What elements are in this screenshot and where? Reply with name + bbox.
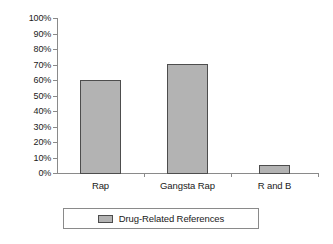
chart-legend: Drug-Related References bbox=[63, 208, 259, 229]
y-axis-tick bbox=[53, 127, 57, 128]
bar bbox=[167, 64, 208, 174]
legend-label: Drug-Related References bbox=[119, 213, 224, 224]
bar bbox=[80, 80, 121, 174]
y-axis-tick bbox=[53, 65, 57, 66]
y-axis-tick-label: 90% bbox=[34, 29, 51, 38]
y-axis-tick bbox=[53, 34, 57, 35]
y-axis-tick-label: 0% bbox=[38, 169, 51, 178]
y-axis-tick bbox=[53, 49, 57, 50]
y-axis-tick bbox=[53, 142, 57, 143]
x-axis-tick bbox=[231, 173, 232, 177]
y-axis-tick-label: 100% bbox=[29, 14, 51, 23]
bar bbox=[259, 165, 290, 174]
y-axis-line bbox=[57, 18, 58, 174]
legend-swatch bbox=[98, 215, 113, 223]
y-axis-tick bbox=[53, 96, 57, 97]
y-axis-tick-label: 30% bbox=[34, 122, 51, 131]
y-axis-tick-label: 80% bbox=[34, 45, 51, 54]
y-axis-tick-label: 10% bbox=[34, 153, 51, 162]
y-axis-tick-label: 20% bbox=[34, 138, 51, 147]
y-axis-tick bbox=[53, 173, 57, 174]
y-axis-tick bbox=[53, 18, 57, 19]
x-axis-category-label: Rap bbox=[92, 180, 109, 191]
bar-chart: 0%10%20%30%40%50%60%70%80%90%100% RapGan… bbox=[0, 0, 333, 244]
y-axis-tick bbox=[53, 158, 57, 159]
x-axis-tick bbox=[144, 173, 145, 177]
x-axis-category-label: Gangsta Rap bbox=[160, 180, 215, 191]
y-axis-tick-label: 50% bbox=[34, 91, 51, 100]
x-axis-tick bbox=[318, 173, 319, 177]
x-axis-category-label: R and B bbox=[258, 180, 292, 191]
y-axis-tick-label: 70% bbox=[34, 60, 51, 69]
y-axis-tick-label: 60% bbox=[34, 76, 51, 85]
y-axis-tick bbox=[53, 111, 57, 112]
y-axis-tick bbox=[53, 80, 57, 81]
plot-area: 0%10%20%30%40%50%60%70%80%90%100% RapGan… bbox=[57, 18, 318, 173]
y-axis-tick-label: 40% bbox=[34, 107, 51, 116]
